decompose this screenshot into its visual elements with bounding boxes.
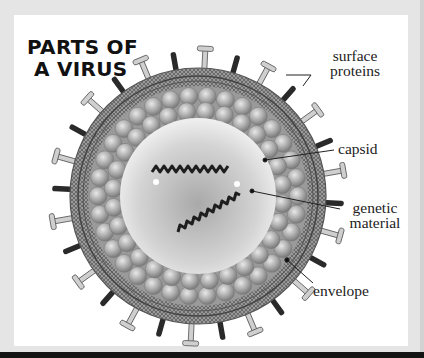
surface-proteins-label: surface proteins (320, 48, 390, 78)
capsid-label: capsid (338, 141, 378, 156)
diagram-title: PARTS OF A VIRUS (27, 36, 138, 80)
envelope-label: envelope (313, 283, 369, 298)
surface-proteins-label-line-2: proteins (320, 63, 390, 78)
genetic-material-label: genetic material (345, 200, 405, 230)
title-line-2: A VIRUS (27, 58, 138, 80)
title-line-1: PARTS OF (27, 36, 138, 58)
core (120, 118, 276, 274)
surface-proteins-label-line-1: surface (320, 48, 390, 63)
genetic-material-label-line-1: genetic (345, 200, 405, 215)
genetic-material-label-line-2: material (345, 215, 405, 230)
